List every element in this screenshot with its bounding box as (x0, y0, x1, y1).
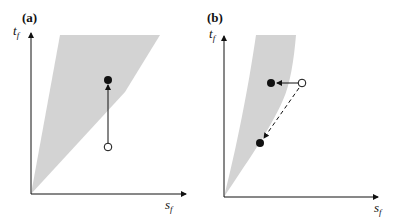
panel-b-open-point (298, 79, 306, 87)
panel-b-shaded-region (224, 35, 296, 197)
panel-b-filled-point-upper (267, 79, 275, 87)
panel-a-x-axis-label: sf (165, 197, 174, 214)
panel-b-filled-point-lower (256, 139, 264, 147)
panel-a: (a) tf sf (13, 10, 186, 214)
panel-b-y-subscript: f (213, 33, 217, 43)
panel-a-shaded-region (31, 35, 160, 194)
panel-b: (b) tf sf (207, 10, 383, 217)
panel-b-x-subscript: f (379, 207, 383, 217)
panel-a-x-subscript: f (170, 204, 174, 214)
panel-b-label: (b) (207, 10, 223, 25)
figure: (a) tf sf (b) tf sf (0, 0, 399, 218)
panel-a-y-subscript: f (17, 30, 21, 40)
panel-a-filled-point (104, 76, 112, 84)
panel-b-y-axis-label: tf (209, 26, 217, 43)
panel-a-label: (a) (22, 10, 37, 25)
panel-a-y-axis-label: tf (13, 23, 21, 40)
panel-b-x-axis-label: sf (374, 200, 383, 217)
panel-a-open-point (104, 143, 112, 151)
